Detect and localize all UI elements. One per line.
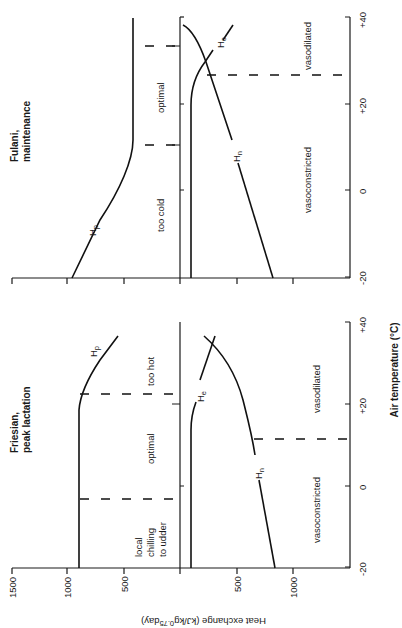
svg-text:500: 500 xyxy=(119,576,130,592)
y-axis-title: Heat exchange (kJ/kg0.75day) xyxy=(141,616,266,628)
friesian-hn-curve xyxy=(204,336,255,455)
friesian-zone-chilling: chilling xyxy=(145,528,156,557)
friesian-panel: Hp He Hn too hot optimal local chilling … xyxy=(9,317,368,576)
svg-text:+40: +40 xyxy=(357,12,368,28)
friesian-hn-label: Hn xyxy=(253,468,266,479)
fulani-he-label: He xyxy=(215,37,228,48)
svg-text:1000: 1000 xyxy=(288,577,299,598)
fulani-hp-label: Hp xyxy=(87,225,100,236)
friesian-hp-label: Hp xyxy=(88,346,101,357)
friesian-zone-vasoconstricted: vasoconstricted xyxy=(311,477,322,543)
svg-text:1000: 1000 xyxy=(62,577,73,598)
svg-text:0: 0 xyxy=(357,189,368,194)
friesian-zone-to-udder: to udder xyxy=(157,522,168,557)
fulani-zone-vasoconstricted: vasoconstricted xyxy=(302,147,313,213)
friesian-he-curve xyxy=(191,402,196,568)
svg-text:500: 500 xyxy=(232,576,243,592)
friesian-he-label: He xyxy=(195,391,208,402)
heat-tick-labels: 1500 1000 500 500 1000 xyxy=(7,576,299,598)
svg-text:-20: -20 xyxy=(357,562,368,576)
svg-text:+20: +20 xyxy=(357,398,368,414)
svg-text:1500: 1500 xyxy=(7,577,18,598)
fulani-zone-vasodilated: vasodilated xyxy=(302,22,313,70)
fulani-zone-too-cold: too cold xyxy=(155,199,166,232)
fulani-hp-curve xyxy=(72,18,133,278)
friesian-zone-local: local xyxy=(133,537,144,557)
friesian-title-line2: peak lactation xyxy=(21,386,32,453)
svg-text:0: 0 xyxy=(357,485,368,490)
x-axis-title: Air temperature (°C) xyxy=(389,322,400,417)
fulani-panel: Hp He Hn too cold optimal vasoconstricte… xyxy=(9,12,368,285)
fulani-title-line1: Fulani, xyxy=(9,130,20,162)
figure-canvas: Hp He Hn too cold optimal vasoconstricte… xyxy=(0,0,402,628)
fulani-title-line2: maintenance xyxy=(21,100,32,162)
fulani-hn-label: Hn xyxy=(231,151,244,162)
friesian-hp-curve xyxy=(79,336,118,568)
fulani-temp-ticks xyxy=(345,17,350,277)
friesian-title-line1: Friesian, xyxy=(9,412,20,453)
svg-text:+20: +20 xyxy=(357,98,368,114)
friesian-zone-too-hot: too hot xyxy=(145,357,156,386)
fulani-he-curve xyxy=(191,50,213,278)
friesian-zone-optimal: optimal xyxy=(145,433,156,464)
friesian-zone-vasodilated: vasodilated xyxy=(311,365,322,413)
svg-text:+40: +40 xyxy=(357,317,368,333)
fulani-zone-optimal: optimal xyxy=(155,82,166,113)
svg-text:-20: -20 xyxy=(357,271,368,285)
